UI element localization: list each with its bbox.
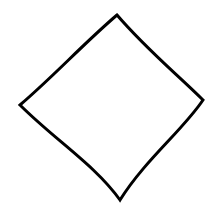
diamond-shape (20, 15, 203, 200)
sketch-canvas (0, 0, 222, 215)
